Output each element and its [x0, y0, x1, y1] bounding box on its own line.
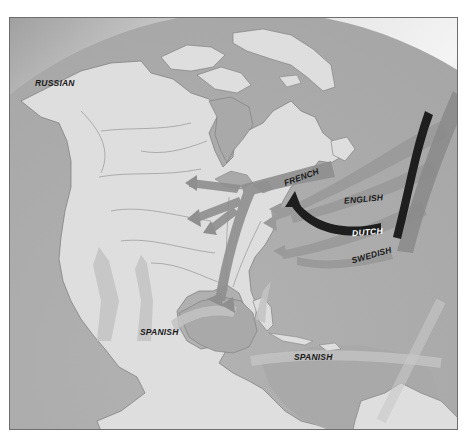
label-spanish-caribbean: SPANISH: [294, 352, 333, 362]
label-russian: RUSSIAN: [35, 78, 75, 88]
colonization-map: RUSSIAN FRENCH ENGLISH DUTCH SWEDISH SPA…: [9, 17, 458, 430]
label-spanish-west: SPANISH: [140, 327, 179, 337]
globe-map-graphic: [9, 17, 458, 430]
